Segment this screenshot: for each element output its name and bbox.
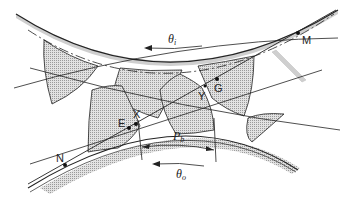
point-Y: [204, 85, 207, 88]
label-theta-i: θi: [168, 32, 176, 47]
point-M: [296, 31, 300, 35]
theta-o-arc-arrow: [154, 163, 204, 166]
theta-o-arrowhead: [152, 161, 160, 167]
line-of-action: [28, 10, 336, 184]
label-theta-o: θo: [176, 167, 186, 182]
point-G: [215, 77, 219, 81]
label-M: M: [302, 34, 311, 46]
gear-mesh-diagram: θi Pb θo M G Y X E N: [0, 0, 346, 201]
label-Y: Y: [198, 90, 206, 102]
upper-gear-teeth: [44, 40, 254, 118]
label-G: G: [214, 82, 223, 94]
point-E: [127, 126, 131, 130]
theta-i-arrowhead: [144, 45, 152, 51]
label-X: X: [133, 108, 141, 120]
label-E: E: [118, 117, 125, 129]
label-N: N: [56, 152, 64, 164]
point-X: [134, 122, 138, 126]
